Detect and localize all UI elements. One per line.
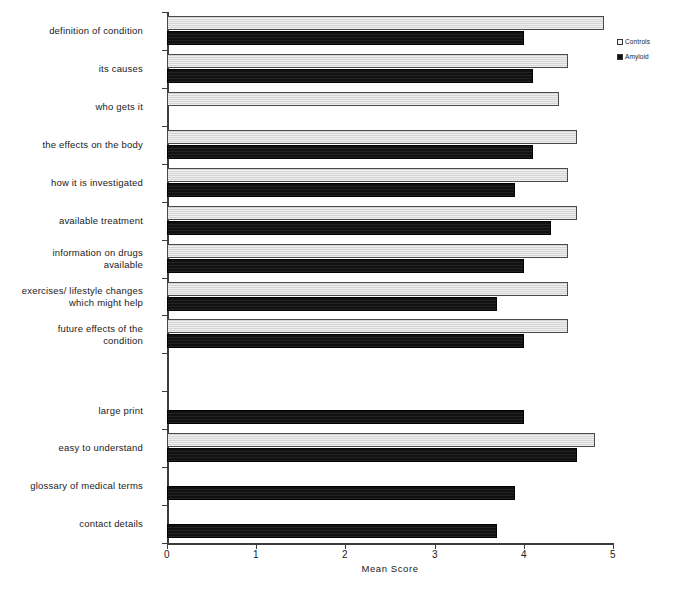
bar-controls — [167, 282, 568, 296]
category-label: who gets it — [0, 101, 143, 113]
y-axis-tick — [162, 164, 168, 165]
bar-controls — [167, 433, 595, 447]
bar-controls — [167, 244, 568, 258]
y-axis-tick — [162, 126, 168, 127]
category-label: glossary of medical terms — [0, 480, 143, 492]
bar-amyloid — [167, 259, 524, 273]
x-axis-title: Mean Score — [167, 563, 613, 574]
category-label: future effects of the condition — [0, 323, 143, 346]
category-label: available treatment — [0, 215, 143, 227]
bar-amyloid — [167, 410, 524, 424]
y-axis-tick — [162, 12, 168, 13]
plot-area — [167, 12, 613, 543]
bar-controls — [167, 16, 604, 30]
x-axis-tick-label: 3 — [420, 549, 450, 560]
x-axis-tick-label: 4 — [509, 549, 539, 560]
bar-amyloid — [167, 448, 577, 462]
y-axis-tick — [162, 505, 168, 506]
y-axis-tick — [162, 278, 168, 279]
y-axis-tick — [162, 315, 168, 316]
category-label: large print — [0, 405, 143, 417]
category-label: its causes — [0, 63, 143, 75]
legend-item-amyloid: Amyloid — [617, 51, 650, 62]
y-axis-tick — [162, 467, 168, 468]
bar-amyloid — [167, 334, 524, 348]
x-axis-tick-label: 1 — [241, 549, 271, 560]
bar-controls — [167, 130, 577, 144]
y-axis-tick — [162, 240, 168, 241]
y-axis-tick — [162, 202, 168, 203]
bar-amyloid — [167, 69, 533, 83]
bar-controls — [167, 168, 568, 182]
bar-controls — [167, 92, 559, 106]
bar-amyloid — [167, 297, 497, 311]
bar-amyloid — [167, 145, 533, 159]
category-label: exercises/ lifestyle changes which might… — [0, 285, 143, 308]
legend-label-controls: Controls — [625, 36, 650, 47]
bar-amyloid — [167, 486, 515, 500]
bar-controls — [167, 319, 568, 333]
x-axis-line — [167, 543, 614, 545]
bar-chart: definition of conditionits causeswho get… — [0, 0, 682, 589]
category-label: the effects on the body — [0, 139, 143, 151]
category-label: contact details — [0, 518, 143, 530]
bar-amyloid — [167, 31, 524, 45]
category-label: easy to understand — [0, 442, 143, 454]
category-label: how it is investigated — [0, 177, 143, 189]
y-axis-tick — [162, 88, 168, 89]
x-axis-tick-label: 2 — [330, 549, 360, 560]
legend-label-amyloid: Amyloid — [625, 51, 649, 62]
bar-amyloid — [167, 221, 551, 235]
bar-controls — [167, 54, 568, 68]
legend: Controls Amyloid — [617, 36, 650, 66]
legend-swatch-controls-icon — [617, 39, 623, 45]
x-axis-tick-label: 5 — [598, 549, 628, 560]
y-axis-tick — [162, 429, 168, 430]
legend-item-controls: Controls — [617, 36, 650, 47]
category-label: definition of condition — [0, 25, 143, 37]
bar-amyloid — [167, 524, 497, 538]
category-label-column: definition of conditionits causeswho get… — [0, 12, 155, 543]
bar-controls — [167, 206, 577, 220]
y-axis-tick — [162, 391, 168, 392]
category-label: information on drugs available — [0, 247, 143, 270]
y-axis-tick — [162, 353, 168, 354]
x-axis-tick-label: 0 — [152, 549, 182, 560]
y-axis-tick — [162, 50, 168, 51]
bar-amyloid — [167, 183, 515, 197]
legend-swatch-amyloid-icon — [617, 54, 623, 60]
